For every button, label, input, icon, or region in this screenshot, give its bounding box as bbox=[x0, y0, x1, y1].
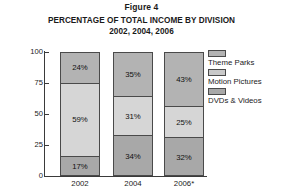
bar-2002[interactable]: 24% 59% 17% bbox=[60, 52, 100, 176]
legend-item-motion-pictures[interactable]: Motion Pictures bbox=[208, 69, 283, 86]
y-tick-label-25: 25 bbox=[15, 140, 43, 149]
bar-segment-theme-parks-2002: 24% bbox=[61, 53, 99, 83]
x-tick-label-2006: 2006* bbox=[154, 179, 214, 188]
y-tick-mark-0 bbox=[45, 176, 49, 177]
bar-segment-theme-parks-2006: 43% bbox=[165, 53, 203, 106]
y-tick-mark-25 bbox=[45, 145, 49, 146]
bar-2004[interactable]: 35% 31% 34% bbox=[113, 52, 153, 176]
figure-container: Figure 4 PERCENTAGE OF TOTAL INCOME BY D… bbox=[0, 0, 283, 195]
bar-segment-dvds-videos-2006: 32% bbox=[165, 137, 203, 176]
chart-legend: Theme Parks Motion Pictures DVDs & Video… bbox=[208, 50, 283, 107]
legend-swatch-icon-theme-parks bbox=[208, 50, 226, 57]
x-axis-line bbox=[44, 176, 207, 177]
y-tick-mark-75 bbox=[45, 83, 49, 84]
bar-segment-dvds-videos-2004: 34% bbox=[114, 135, 152, 176]
legend-item-theme-parks[interactable]: Theme Parks bbox=[208, 50, 283, 67]
y-tick-label-50: 50 bbox=[15, 109, 43, 118]
legend-label-motion-pictures: Motion Pictures bbox=[208, 77, 283, 86]
legend-item-dvds-videos[interactable]: DVDs & Videos bbox=[208, 88, 283, 105]
legend-label-theme-parks: Theme Parks bbox=[208, 58, 283, 67]
bar-segment-dvds-videos-2002: 17% bbox=[61, 156, 99, 176]
legend-label-dvds-videos: DVDs & Videos bbox=[208, 96, 283, 105]
y-tick-label-100: 100 bbox=[15, 47, 43, 56]
x-tick-label-2002: 2002 bbox=[50, 179, 110, 188]
legend-swatch-icon-dvds-videos bbox=[208, 88, 226, 95]
y-tick-label-75: 75 bbox=[15, 78, 43, 87]
bar-segment-theme-parks-2004: 35% bbox=[114, 53, 152, 96]
bar-segment-motion-pictures-2002: 59% bbox=[61, 83, 99, 156]
bar-2006[interactable]: 43% 25% 32% bbox=[164, 52, 204, 176]
y-tick-mark-50 bbox=[45, 114, 49, 115]
bar-segment-motion-pictures-2006: 25% bbox=[165, 106, 203, 137]
y-tick-label-0: 0 bbox=[15, 171, 43, 180]
y-tick-mark-100 bbox=[45, 52, 49, 53]
bar-segment-motion-pictures-2004: 31% bbox=[114, 96, 152, 134]
legend-swatch-icon-motion-pictures bbox=[208, 69, 226, 76]
